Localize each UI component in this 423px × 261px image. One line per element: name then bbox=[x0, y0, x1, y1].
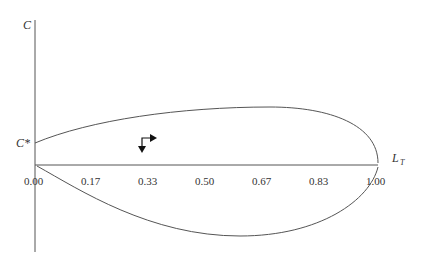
x-tick-labels: 0.00 0.17 0.33 0.50 0.67 0.83 1.00 bbox=[24, 175, 386, 187]
tick-label: 1.00 bbox=[366, 175, 386, 187]
svg-text:T: T bbox=[400, 158, 405, 167]
tick-label: 0.83 bbox=[309, 175, 329, 187]
tick-label: 0.17 bbox=[81, 175, 101, 187]
svg-text:L: L bbox=[391, 151, 399, 165]
phase-diagram: C C* L T 0.00 0.17 0.33 0.50 0.67 0.83 1… bbox=[0, 0, 423, 261]
tick-label: 0.50 bbox=[195, 175, 215, 187]
x-axis-label: L T bbox=[391, 151, 405, 167]
tick-label: 0.00 bbox=[24, 175, 44, 187]
tick-label: 0.67 bbox=[252, 175, 272, 187]
upper-curve bbox=[35, 107, 378, 163]
tick-label: 0.33 bbox=[138, 175, 158, 187]
c-star-label: C* bbox=[16, 136, 30, 150]
direction-arrows-icon bbox=[138, 134, 157, 153]
y-axis-label: C bbox=[23, 18, 32, 32]
